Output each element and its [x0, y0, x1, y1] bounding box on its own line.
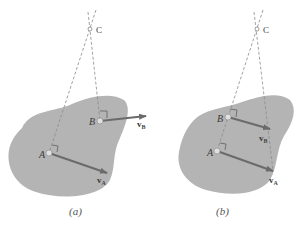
- label-vb-a: vB: [137, 119, 146, 130]
- rigid-body-a: [8, 96, 127, 197]
- point-a-b: [214, 148, 220, 154]
- label-b-b: B: [217, 113, 223, 124]
- label-c-a: C: [96, 25, 102, 35]
- label-c-b: C: [263, 25, 269, 35]
- figure-b: C A B vB vA (b): [178, 10, 293, 218]
- instant-center-diagram: C A B vA vB (a) C A B vB vA (b): [0, 0, 299, 227]
- instant-center-c-a: [88, 27, 92, 31]
- caption-b: (b): [216, 205, 229, 218]
- point-a-a: [46, 150, 52, 156]
- instant-center-c-b: [255, 27, 259, 31]
- caption-a: (a): [69, 205, 82, 218]
- label-a-a: A: [38, 149, 46, 160]
- label-va-b: vA: [269, 175, 279, 186]
- figure-a: C A B vA vB (a): [8, 10, 146, 218]
- point-b-b: [225, 114, 231, 120]
- point-b-a: [97, 118, 103, 124]
- label-b-a: B: [89, 116, 95, 127]
- label-a-b: A: [206, 147, 214, 158]
